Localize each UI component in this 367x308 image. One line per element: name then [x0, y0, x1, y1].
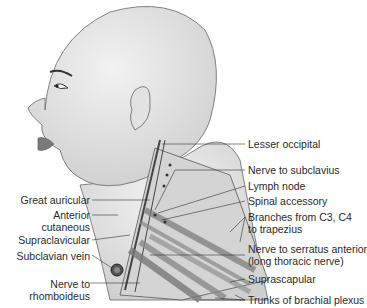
label-line: Anterior	[42, 209, 90, 221]
label-line: cutaneous	[42, 221, 90, 233]
label-spinal-accessory: Spinal accessory	[248, 195, 327, 207]
label-great-auricular: Great auricular	[21, 194, 90, 206]
label-trunks-of-brachial-plexus: Trunks of brachial plexus	[248, 294, 364, 306]
label-supraclavicular: Supraclavicular	[18, 234, 90, 246]
label-nerve-to-serratus-anterior: Nerve to serratus anterior (long thoraci…	[248, 243, 367, 267]
label-branches-c3-c4: Branches from C3, C4 to trapezius	[248, 211, 352, 235]
label-nerve-to-subclavius: Nerve to subclavius	[248, 164, 340, 176]
label-line: Nerve to serratus anterior	[248, 243, 367, 255]
label-line: Nerve to	[29, 278, 90, 290]
label-anterior-cutaneous: Anterior cutaneous	[42, 209, 90, 233]
label-line: (long thoracic nerve)	[248, 255, 367, 267]
label-line: Branches from C3, C4	[248, 211, 352, 223]
label-subclavian-vein: Subclavian vein	[16, 250, 90, 262]
label-line: to trapezius	[248, 223, 352, 235]
label-lymph-node: Lymph node	[248, 180, 305, 192]
label-line: rhomboideus	[29, 290, 90, 302]
label-lesser-occipital: Lesser occipital	[248, 138, 320, 150]
label-suprascapular: Suprascapular	[248, 273, 316, 285]
label-nerve-to-rhomboideus: Nerve to rhomboideus	[29, 278, 90, 302]
